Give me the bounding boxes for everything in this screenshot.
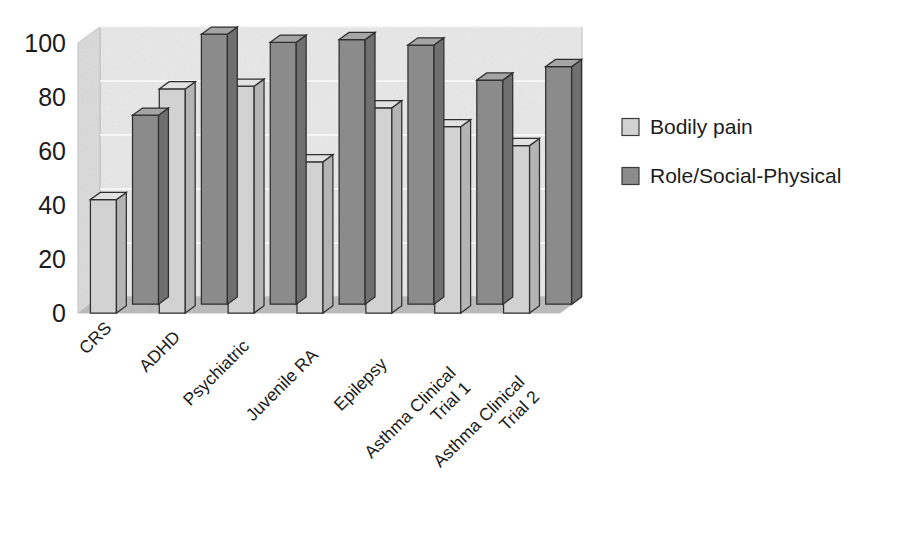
bar-side-face — [296, 35, 306, 304]
bar-front-face — [408, 45, 434, 304]
bar-front-face — [90, 200, 116, 313]
legend-swatch-icon — [622, 119, 639, 136]
y-tick-label-100: 100 — [24, 29, 66, 57]
y-tick-label-0: 0 — [52, 299, 66, 327]
bar-side-face — [572, 59, 582, 304]
bar-front-face — [133, 115, 159, 304]
bar-side-face — [254, 79, 264, 313]
legend-label: Role/Social-Physical — [650, 164, 841, 187]
bar-1-2 — [270, 35, 306, 304]
bar-front-face — [270, 42, 296, 304]
legend-swatch-icon — [622, 168, 639, 185]
bar-front-face — [546, 67, 572, 305]
bar-1-0 — [133, 108, 169, 304]
bar-front-face — [477, 80, 503, 304]
legend-label: Bodily pain — [650, 115, 753, 138]
chart-container: 020406080100 CRSADHDPsychiatricJuvenile … — [0, 0, 910, 552]
y-tick-label-80: 80 — [38, 83, 66, 111]
bar-side-face — [365, 32, 375, 304]
bar-front-face — [201, 34, 227, 304]
bar-side-face — [116, 192, 126, 313]
bar-front-face — [339, 40, 365, 305]
bar-1-5 — [477, 73, 513, 304]
bar-1-1 — [201, 27, 237, 304]
bar-side-face — [434, 38, 444, 304]
bar-side-face — [503, 73, 513, 304]
bar-side-face — [461, 120, 471, 314]
bar-side-face — [530, 138, 540, 313]
bar-1-3 — [339, 32, 375, 304]
bar-0-0 — [90, 192, 126, 313]
y-tick-label-60: 60 — [38, 137, 66, 165]
y-tick-label-40: 40 — [38, 191, 66, 219]
bar-1-6 — [546, 59, 582, 304]
bar-side-face — [227, 27, 237, 304]
bar-side-face — [323, 155, 333, 313]
column-chart-3d: 020406080100 CRSADHDPsychiatricJuvenile … — [0, 0, 910, 552]
bar-side-face — [159, 108, 169, 304]
y-tick-label-20: 20 — [38, 245, 66, 273]
bar-side-face — [392, 101, 402, 313]
legend-item-1[interactable]: Role/Social-Physical — [622, 164, 841, 187]
bar-1-4 — [408, 38, 444, 304]
bar-side-face — [185, 82, 195, 313]
